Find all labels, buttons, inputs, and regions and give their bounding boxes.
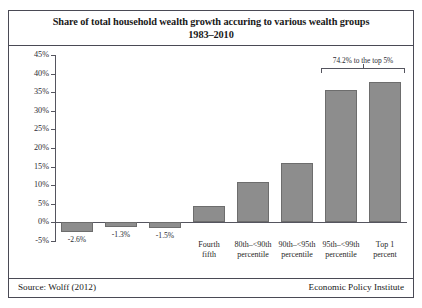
y-axis-label: 45% — [15, 51, 49, 59]
attribution-note: Economic Policy Institute — [309, 282, 404, 293]
bars-layer: -2.6%-1.3%-1.5%Fourthfifth80th–<90thperc… — [9, 47, 415, 279]
y-axis-label: 5% — [15, 200, 49, 208]
y-axis-label: 25% — [15, 125, 49, 133]
y-axis-tick — [51, 129, 56, 130]
y-axis-tick — [51, 148, 56, 149]
y-axis-tick — [51, 222, 56, 223]
chart-title: Share of total household wealth growth a… — [9, 11, 413, 46]
y-axis-tick — [51, 204, 56, 205]
bar — [193, 206, 225, 222]
y-axis-tick — [51, 55, 56, 56]
chart-figure: Share of total household wealth growth a… — [0, 0, 422, 308]
bar — [61, 222, 93, 232]
y-axis-label: 15% — [15, 163, 49, 171]
source-note: Source: Wolff (2012) — [18, 282, 96, 293]
chart-footer: Source: Wolff (2012) Economic Policy Ins… — [9, 278, 413, 297]
y-axis-tick — [51, 241, 56, 242]
y-axis-label: 40% — [15, 70, 49, 78]
y-axis-label: 20% — [15, 144, 49, 152]
annotation-bracket — [321, 68, 405, 73]
y-axis-label: 35% — [15, 88, 49, 96]
y-axis-label: -5% — [15, 237, 49, 245]
y-axis-label: 30% — [15, 107, 49, 115]
x-axis-category-label: Top 1percent — [357, 240, 413, 258]
bar — [149, 222, 181, 228]
y-axis-tick — [51, 185, 56, 186]
y-axis-tick — [51, 92, 56, 93]
bar — [325, 90, 357, 222]
bar — [105, 222, 137, 227]
y-axis-label: 0% — [15, 218, 49, 226]
chart-title-line-1: Share of total household wealth growth a… — [19, 16, 403, 29]
bar — [237, 182, 269, 222]
bar — [281, 163, 313, 223]
y-axis-tick — [51, 111, 56, 112]
x-axis-category-label-line: percent — [357, 250, 413, 259]
chart-title-line-2: 1983–2010 — [19, 29, 403, 42]
x-axis-category-label-line: Top 1 — [357, 240, 413, 249]
chart-frame: Share of total household wealth growth a… — [8, 10, 414, 298]
y-axis-tick — [51, 74, 56, 75]
y-axis-label: 10% — [15, 181, 49, 189]
bar — [369, 82, 401, 223]
bar-value-label: -1.5% — [135, 232, 195, 240]
y-axis-tick — [51, 167, 56, 168]
plot-area: -2.6%-1.3%-1.5%Fourthfifth80th–<90thperc… — [9, 47, 415, 279]
annotation-label: 74.2% to the top 5% — [301, 57, 422, 65]
